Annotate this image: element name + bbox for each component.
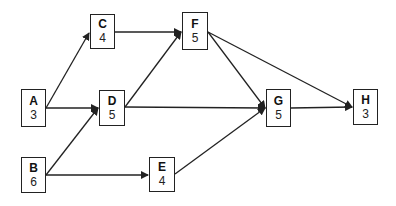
node-label: F	[191, 17, 198, 31]
node-label: D	[108, 94, 117, 108]
node-label: B	[29, 161, 38, 175]
node-duration: 3	[30, 108, 37, 123]
node-g: G 5	[266, 89, 291, 127]
edge-g-h	[291, 107, 352, 108]
node-label: H	[361, 93, 370, 107]
node-duration: 4	[159, 174, 166, 189]
edge-d-f	[125, 32, 181, 107]
node-d: D 5	[99, 90, 125, 126]
node-a: A 3	[21, 89, 46, 127]
node-duration: 6	[30, 175, 37, 190]
node-duration: 5	[192, 31, 199, 46]
edge-a-c	[46, 33, 89, 108]
node-c: C 4	[90, 14, 115, 49]
node-b: B 6	[21, 157, 46, 193]
node-duration: 4	[99, 31, 106, 46]
node-label: C	[98, 17, 107, 31]
edge-d-g	[125, 107, 265, 108]
edge-e-g	[175, 108, 265, 174]
node-duration: 3	[362, 107, 369, 122]
node-label: G	[274, 94, 283, 108]
node-h: H 3	[353, 89, 378, 125]
node-e: E 4	[149, 157, 175, 192]
edge-b-d	[46, 108, 98, 175]
node-duration: 5	[275, 108, 282, 123]
edge-f-g	[208, 32, 265, 108]
node-duration: 5	[109, 108, 116, 123]
node-label: E	[158, 160, 166, 174]
node-label: A	[29, 94, 38, 108]
node-f: F 5	[182, 12, 208, 50]
